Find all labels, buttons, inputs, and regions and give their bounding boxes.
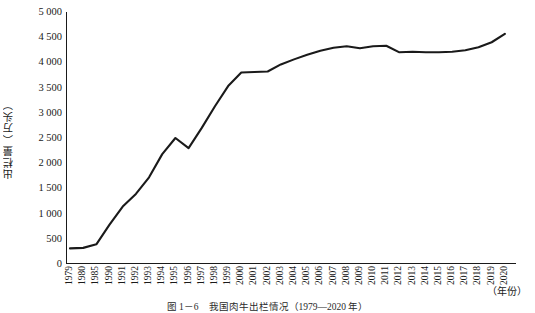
y-tick-label: 2 000 [16,158,62,168]
x-tick-label: 2011 [381,266,391,285]
x-tick-label: 1985 [91,266,101,285]
x-tick-label: 1992 [131,266,141,285]
x-tick-label: 2010 [368,266,378,285]
x-tick-label: 2018 [473,266,483,285]
y-tick-label: 1 000 [16,209,62,219]
y-tick-label: 0 [16,259,62,269]
x-tick-label: 1998 [210,266,220,285]
x-tick-label: 2009 [355,266,365,285]
y-tick-label: 4 500 [16,32,62,42]
figure-caption: 图 1－6 我国肉牛出栏情况（1979—2020 年） [0,299,535,313]
x-tick-label: 1990 [105,266,115,285]
x-tick-label: 1980 [78,266,88,285]
y-tick-label: 1 500 [16,183,62,193]
x-tick-label: 1997 [197,266,207,285]
plot-area [66,12,516,264]
x-tick-label: 2006 [315,266,325,285]
x-tick-label: 2005 [302,266,312,285]
x-tick-label: 2002 [263,266,273,285]
x-tick-label: 2001 [249,266,259,285]
x-tick-label: 2014 [421,266,431,285]
y-tick-label: 3 500 [16,83,62,93]
x-tick-label: 2016 [447,266,457,285]
y-tick-label: 500 [16,234,62,244]
y-tick-label: 3 000 [16,108,62,118]
data-series-line [70,34,505,248]
x-tick-label: 1979 [65,266,75,285]
axis-lines [66,12,516,264]
x-tick-label: 2017 [460,266,470,285]
x-tick-label: 1991 [118,266,128,285]
x-tick-label: 2012 [394,266,404,285]
x-tick-label: 2015 [434,266,444,285]
x-tick-label: 2004 [289,266,299,285]
y-tick-label: 5 000 [16,7,62,17]
line-chart-svg [66,12,516,264]
x-tick-label: 2008 [342,266,352,285]
x-tick-label: 1993 [144,266,154,285]
x-tick-label: 1995 [170,266,180,285]
x-axis-tick-labels: 1979198019851990199119921993199419951996… [66,266,526,302]
x-tick-label: 2007 [329,266,339,285]
x-tick-label: 1996 [184,266,194,285]
x-axis-title: （年份） [487,283,527,298]
y-tick-label: 4 000 [16,57,62,67]
x-tick-label: 1999 [223,266,233,285]
y-axis-tick-labels: 5 0004 5004 0003 5003 0002 5002 0001 500… [14,0,62,280]
y-tick-label: 2 500 [16,133,62,143]
x-tick-label: 1994 [157,266,167,285]
x-tick-label: 2000 [236,266,246,285]
x-tick-label: 2003 [276,266,286,285]
x-tick-label: 2013 [408,266,418,285]
